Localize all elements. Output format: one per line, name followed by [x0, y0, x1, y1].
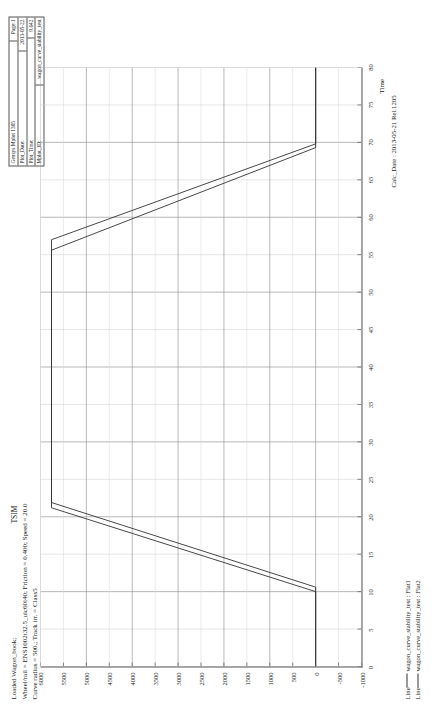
y-tick-label: 3000 [175, 672, 182, 715]
legend-line-swatch [406, 673, 407, 687]
x-tick-label: 80 [366, 64, 373, 71]
plot-date-label: Plot_Date: [18, 55, 26, 163]
x-tick-label: 35 [366, 401, 373, 408]
x-tick-label: 60 [366, 214, 373, 221]
legend-marker-label: Line [413, 687, 420, 699]
x-tick-label: 55 [366, 251, 373, 258]
x-tick-label: 65 [366, 176, 373, 183]
y-tick-label: 1000 [267, 672, 274, 715]
chart-plot-area [40, 67, 362, 667]
y-tick-label: 0 [313, 672, 320, 715]
info-box: Gensys Mplot 1305 Page:1 Plot_Date: 2013… [8, 16, 44, 166]
info-row-plot-date: Plot_Date: 2013-05-22 [18, 17, 27, 165]
x-tick-label: 10 [366, 589, 373, 596]
x-tick-label: 20 [366, 514, 373, 521]
legend-marker-label: Line [403, 687, 410, 699]
chart-canvas [40, 67, 361, 666]
plot-page: Loaded Wagon_book; Wheel/rail = ENS1002t… [0, 0, 439, 715]
title-line-3: Curve radius = 500.; Track irr. = Class5 [29, 503, 40, 699]
calc-date: Calc_Date : 2013-05-21 Rel.1205 [389, 95, 396, 187]
y-tick-label: 6000 [37, 672, 44, 715]
plot-time-value: 9.642 [27, 19, 35, 38]
y-tick-label: 2000 [221, 672, 228, 715]
info-row-app: Gensys Mplot 1305 Page:1 [9, 17, 18, 165]
series-line-1 [51, 67, 315, 666]
series-line-0 [51, 67, 315, 666]
x-axis-title: Time [377, 78, 385, 93]
x-tick-label: 15 [366, 551, 373, 558]
x-tick-label: 70 [366, 139, 373, 146]
plot-sheet-landscape: Loaded Wagon_book; Wheel/rail = ENS1002t… [0, 0, 439, 715]
plot-time-label: Plot_Time: [27, 42, 35, 163]
title-block: Loaded Wagon_book; Wheel/rail = ENS1002t… [8, 503, 40, 699]
y-tick-label: 5000 [83, 672, 90, 715]
title-line-1: Loaded Wagon_book; [8, 503, 19, 699]
info-row-plot-time: Plot_Time: 9.642 [27, 17, 36, 165]
chart-legend: Linewagon_curve_stability_test : Flat1Li… [402, 580, 422, 699]
x-tick-label: 25 [366, 476, 373, 483]
app-title: Gensys Mplot 1305 [9, 45, 17, 163]
legend-item-text: wagon_curve_stability_test : Flat2 [413, 580, 420, 671]
y-tick-label: 1500 [244, 672, 251, 715]
y-tick-label: 2500 [198, 672, 205, 715]
x-tick-label: 5 [366, 628, 373, 631]
y-tick-label: 3500 [152, 672, 159, 715]
page-label: Page:1 [9, 19, 17, 41]
x-tick-label: 40 [366, 364, 373, 371]
x-tick-label: 75 [366, 101, 373, 108]
y-tick-label: -1000 [359, 672, 366, 715]
y-tick-label: -500 [336, 672, 343, 715]
legend-item-text: wagon_curve_stability_test : Flat1 [403, 580, 410, 671]
legend-item: Linewagon_curve_stability_test : Flat2 [412, 580, 422, 699]
title-line-2: Wheel/rail = ENS1002t32.5_uic60i40; Fric… [19, 503, 30, 699]
tsim-label: TSIM [8, 505, 19, 523]
y-tick-label: 4000 [129, 672, 136, 715]
y-tick-label: 4500 [106, 672, 113, 715]
legend-item: Linewagon_curve_stability_test : Flat1 [402, 580, 412, 699]
x-tick-label: 0 [366, 665, 373, 668]
legend-line-swatch [417, 673, 418, 687]
plot-date-value: 2013-05-22 [18, 19, 26, 51]
y-tick-label: 500 [290, 672, 297, 715]
y-tick-label: 5500 [60, 672, 67, 715]
x-tick-label: 45 [366, 326, 373, 333]
x-tick-label: 30 [366, 439, 373, 446]
x-tick-label: 50 [366, 289, 373, 296]
